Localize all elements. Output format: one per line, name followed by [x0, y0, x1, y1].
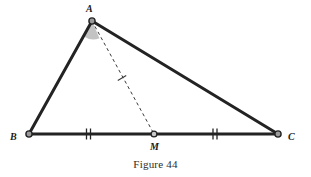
- vertex-point-B: [26, 131, 32, 137]
- vertex-label-b: B: [10, 132, 17, 142]
- vertex-label-m: M: [150, 142, 159, 152]
- segment-AB: [29, 21, 92, 134]
- vertex-point-M: [151, 131, 157, 137]
- segment-AC: [92, 21, 278, 134]
- vertex-label-c: C: [288, 132, 295, 142]
- vertex-point-C: [275, 131, 281, 137]
- geometry-figure: A B C M Figure 44: [0, 0, 311, 177]
- figure-caption: Figure 44: [0, 158, 311, 170]
- vertex-point-A: [89, 18, 95, 24]
- vertex-label-a: A: [86, 4, 93, 14]
